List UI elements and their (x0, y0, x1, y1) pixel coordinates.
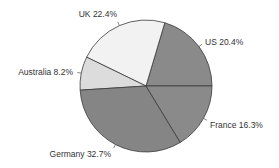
leader-line (118, 22, 120, 26)
pie-chart: US 20.4% UK 22.4% Australia 8.2% Germany… (0, 0, 279, 168)
label-france: France 16.3% (210, 120, 263, 130)
leader-line (77, 72, 81, 73)
label-australia: Australia 8.2% (18, 67, 73, 77)
leader-line (204, 118, 207, 120)
leader-line (199, 44, 202, 46)
label-us: US 20.4% (205, 37, 244, 47)
leader-line (114, 145, 116, 149)
pie-slices (80, 20, 212, 152)
label-uk: UK 22.4% (79, 9, 118, 19)
label-germany: Germany 32.7% (50, 149, 112, 159)
